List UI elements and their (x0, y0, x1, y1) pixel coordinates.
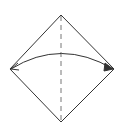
paper-square-diamond (10, 15, 114, 122)
fold-arrow-curve (11, 54, 113, 70)
origami-diagram (0, 0, 123, 127)
